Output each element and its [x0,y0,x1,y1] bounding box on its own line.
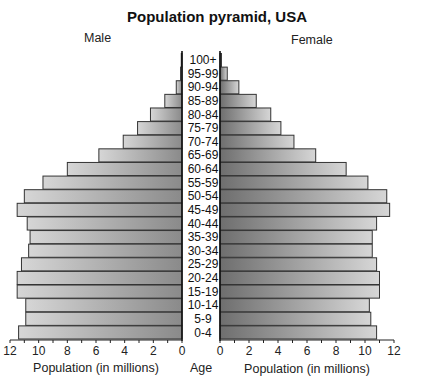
female-bar-20-24 [220,271,380,284]
female-bar-65-69 [220,149,316,162]
age-label: 70-74 [188,135,219,149]
female-bar-25-29 [220,258,377,271]
male-tick-label: 10 [32,344,46,358]
male-bar-50-54 [24,190,182,203]
age-axis-label: Age [190,361,212,375]
male-bar-20-24 [17,271,182,284]
female-bar-5-9 [220,312,371,325]
age-label: 90-94 [188,80,219,94]
male-tick-label: 6 [93,344,100,358]
male-tick-label: 8 [64,344,71,358]
female-bar-95-99 [220,67,227,80]
male-bar-90-94 [176,81,182,94]
age-label: 0-4 [194,326,212,340]
female-bar-30-34 [220,244,372,257]
female-bar-10-14 [220,299,369,312]
male-tick-label: 12 [3,344,17,358]
age-label: 35-39 [188,230,219,244]
female-bar-90-94 [220,81,239,94]
male-bar-45-49 [17,203,182,216]
age-label: 100+ [189,53,216,67]
male-bar-65-69 [99,149,182,162]
female-bars [220,54,390,340]
age-label: 80-84 [188,108,219,122]
male-bar-0-4 [19,326,182,339]
female-x-axis-label: Population (in millions) [244,362,370,376]
age-label: 15-19 [188,285,219,299]
male-bar-30-34 [29,244,182,257]
age-label: 10-14 [188,298,219,312]
female-bar-40-44 [220,217,377,230]
age-label: 65-69 [188,148,219,162]
male-bar-55-59 [43,176,182,189]
age-label: 25-29 [188,257,219,271]
female-tick-label: 4 [275,344,282,358]
male-bar-70-74 [123,135,182,148]
male-bar-5-9 [26,312,182,325]
male-tick-label: 0 [179,344,186,358]
female-bar-15-19 [220,285,380,298]
male-tick-label: 4 [121,344,128,358]
age-label: 85-89 [188,94,219,108]
age-labels: 100+95-9990-9485-8980-8475-7970-7465-696… [188,53,219,339]
female-tick-label: 12 [387,344,401,358]
female-tick-label: 10 [358,344,372,358]
age-label: 5-9 [194,312,212,326]
female-bar-85-89 [220,94,256,107]
male-bar-10-14 [26,299,182,312]
male-bar-80-84 [150,108,182,121]
age-label: 30-34 [188,244,219,258]
male-tick-label: 2 [150,344,157,358]
female-bar-75-79 [220,122,281,135]
male-bar-85-89 [165,94,182,107]
age-label: 60-64 [188,162,219,176]
female-bar-50-54 [220,190,387,203]
female-tick-label: 6 [304,344,311,358]
age-label: 20-24 [188,271,219,285]
age-label: 40-44 [188,217,219,231]
age-label: 50-54 [188,189,219,203]
female-bar-60-64 [220,162,346,175]
female-tick-label: 0 [217,344,224,358]
female-bar-45-49 [220,203,390,216]
male-bar-40-44 [27,217,182,230]
female-bar-35-39 [220,231,372,244]
female-tick-label: 8 [333,344,340,358]
female-bar-55-59 [220,176,368,189]
male-bar-15-19 [17,285,182,298]
male-bar-75-79 [138,122,182,135]
male-bar-60-64 [67,162,182,175]
male-bar-25-29 [21,258,182,271]
age-label: 55-59 [188,176,219,190]
female-bar-70-74 [220,135,294,148]
population-pyramid-chart: Population pyramid, USA Male Female 100+… [0,0,434,384]
male-x-axis-label: Population (in millions) [33,361,159,375]
female-bar-0-4 [220,326,377,339]
male-bar-35-39 [30,231,182,244]
plot-area: 100+95-9990-9485-8980-8475-7970-7465-696… [0,0,434,384]
male-bars [17,54,182,340]
female-tick-label: 2 [246,344,253,358]
female-bar-80-84 [220,108,271,121]
age-label: 75-79 [188,121,219,135]
age-label: 95-99 [188,67,219,81]
age-label: 45-49 [188,203,219,217]
